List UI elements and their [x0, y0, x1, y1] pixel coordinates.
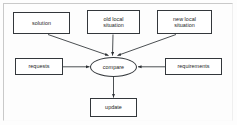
node-new-local-situation-label: new local situation	[171, 16, 198, 29]
node-compare-label: compare	[101, 64, 126, 70]
node-solution[interactable]: solution	[13, 12, 70, 34]
node-requirements-label: requirements	[175, 63, 211, 69]
node-requests[interactable]: requests	[15, 58, 63, 75]
node-solution-label: solution	[30, 20, 53, 26]
edge-solution-to-compare	[48, 35, 109, 56]
node-old-local-situation-label: old local situation	[101, 16, 126, 29]
edge-new-local-to-compare	[118, 35, 177, 56]
node-new-local-situation[interactable]: new local situation	[157, 10, 212, 34]
node-update-label: update	[103, 104, 124, 110]
node-requirements[interactable]: requirements	[165, 58, 222, 75]
node-requests-label: requests	[26, 63, 51, 69]
node-compare[interactable]: compare	[90, 57, 137, 77]
node-old-local-situation[interactable]: old local situation	[87, 10, 140, 34]
diagram-canvas: solution old local situation new local s…	[0, 0, 237, 125]
node-update[interactable]: update	[90, 98, 137, 117]
edge-old-local-to-compare	[113, 35, 114, 56]
